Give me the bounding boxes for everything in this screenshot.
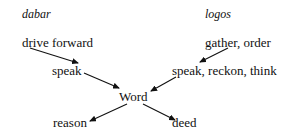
arrow-drive-forward-to-speak [30,48,78,63]
etymology-diagram: dabar logos drive forward gather, order … [0,0,297,137]
arrow-word-to-deed [143,104,175,120]
arrow-speak-to-word [84,73,119,88]
node-speak-reckon-think: speak, reckon, think [172,64,277,77]
node-word: Word [119,90,148,103]
node-drive-forward: drive forward [22,36,93,49]
node-reason: reason [53,116,87,129]
node-deed: deed [172,116,197,129]
arrow-speak-reckon-to-word [151,77,176,91]
arrow-gather-order-to-speak-reckon [200,48,228,62]
heading-dabar: dabar [22,8,51,21]
node-speak: speak [52,64,82,77]
arrow-word-to-reason [90,104,127,121]
heading-logos: logos [205,8,231,21]
node-gather-order: gather, order [205,36,271,49]
